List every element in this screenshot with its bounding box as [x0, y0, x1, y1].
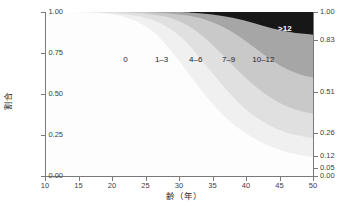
y-tick-label-right: 0.51 — [320, 88, 335, 96]
plot-area — [45, 12, 313, 176]
y-tick-right — [314, 92, 318, 93]
y-tick-right — [314, 156, 318, 157]
y-tick-right — [314, 133, 318, 134]
y-tick-label-left: 0.50 — [48, 90, 63, 98]
x-tick-label: 45 — [265, 182, 295, 190]
y-tick-label-right: 0.05 — [320, 164, 335, 172]
y-tick-left — [41, 94, 45, 95]
y-tick-label-right: 1.00 — [320, 8, 335, 16]
y-tick-label-left: 1.00 — [48, 8, 63, 16]
y-tick-label-left: 0.75 — [48, 49, 63, 57]
y-tick-right — [314, 168, 318, 169]
y-axis-right-line — [313, 12, 314, 177]
y-axis-left-line — [45, 12, 46, 177]
x-tick-label: 20 — [97, 182, 127, 190]
y-axis-title: 割合 — [1, 81, 13, 121]
y-tick-left — [41, 53, 45, 54]
y-tick-label-left: 0.00 — [48, 172, 63, 180]
x-tick-label: 50 — [298, 182, 328, 190]
contour-proportion-chart: 0.000.250.500.751.00 0.000.050.120.260.5… — [0, 0, 359, 207]
y-tick-label-right: 0.26 — [320, 129, 335, 137]
y-tick-label-left: 0.25 — [48, 131, 63, 139]
x-axis-title: 齢（年） — [149, 189, 219, 201]
x-tick-label: 15 — [64, 182, 94, 190]
contour-band-layer — [45, 12, 313, 176]
y-tick-left — [41, 12, 45, 13]
y-tick-right — [314, 12, 318, 13]
y-tick-left — [41, 135, 45, 136]
y-tick-label-right: 0.00 — [320, 172, 335, 180]
x-tick-label: 40 — [231, 182, 261, 190]
y-tick-right — [314, 176, 318, 177]
y-tick-right — [314, 40, 318, 41]
x-tick-label: 10 — [30, 182, 60, 190]
y-tick-label-right: 0.83 — [320, 36, 335, 44]
y-tick-label-right: 0.12 — [320, 152, 335, 160]
